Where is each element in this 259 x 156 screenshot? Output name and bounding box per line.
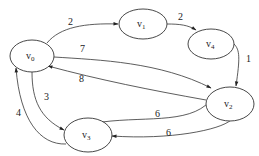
edge-weight-label: 6 [155,108,160,119]
edge-v0-v1: 2 [47,16,118,43]
edge-v3-v2: 6 [102,96,214,122]
graph-diagram: 2 2 1 7 8 3 4 6 6 v0 v1 v4 [0,0,259,156]
node-v1: v1 [119,9,167,39]
edge-weight-label: 8 [79,73,84,84]
node-v0: v0 [10,40,54,72]
edge-v2-v0: 8 [48,66,206,100]
node-v2: v2 [206,87,254,121]
edge-weight-label: 4 [16,107,21,118]
node-v4: v4 [188,29,234,59]
edge-weight-label: 2 [68,16,73,27]
edge-weight-label: 3 [44,91,49,102]
edge-v3-v0: 4 [16,68,66,144]
node-v3: v3 [64,118,112,152]
edge-weight-label: 1 [246,53,251,64]
edge-weight-label: 6 [166,127,171,138]
edge-v2-v3: 6 [112,120,231,138]
edge-v0-v3: 3 [32,72,64,130]
edge-v0-v2: 7 [54,43,211,88]
edge-v4-v2: 1 [234,44,251,86]
edge-weight-label: 7 [80,43,85,54]
edge-v1-v4: 2 [167,11,196,30]
edge-weight-label: 2 [178,11,183,22]
